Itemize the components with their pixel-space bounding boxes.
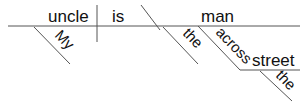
complement-modifier-word: the — [180, 24, 207, 51]
verb-word: is — [112, 7, 124, 26]
complement-word: man — [201, 7, 234, 26]
subject-word: uncle — [48, 7, 89, 26]
preposition-word: across — [213, 23, 256, 67]
sentence-diagram: uncle is man My the across street the — [0, 0, 304, 102]
object-word: street — [252, 51, 295, 70]
